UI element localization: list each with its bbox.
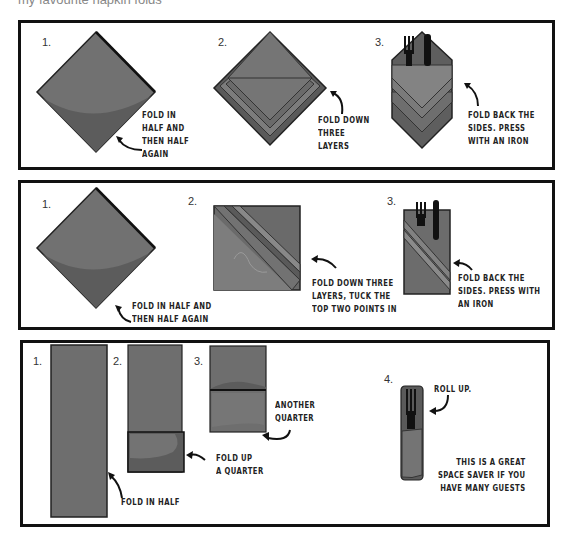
step-note: Fold in half bbox=[121, 495, 180, 508]
step-note: Fold back thesides. Presswith an iron bbox=[468, 108, 535, 147]
step-number: 2. bbox=[113, 355, 122, 367]
step-note: Fold downthreelayers bbox=[318, 113, 370, 152]
folded-up-quarter-napkin-icon bbox=[127, 344, 185, 474]
step-number: 3. bbox=[194, 355, 203, 367]
step-number: 2. bbox=[188, 195, 197, 207]
curved-arrow-icon bbox=[260, 428, 292, 444]
step-number: 3. bbox=[387, 195, 396, 207]
step-note: Anotherquarter bbox=[275, 398, 315, 424]
square-diagonal-layers-napkin-icon bbox=[212, 204, 302, 292]
step-note: Fold upa quarter bbox=[216, 451, 264, 477]
step-note: Fold inhalf andthen halfagain bbox=[142, 108, 189, 160]
curved-arrow-icon bbox=[328, 88, 350, 116]
curved-arrow-icon bbox=[462, 80, 482, 108]
rectangular-pocket-with-cutlery-icon bbox=[402, 200, 452, 296]
curved-arrow-icon bbox=[113, 302, 133, 324]
curved-arrow-icon bbox=[106, 470, 126, 500]
step-number: 4. bbox=[384, 373, 393, 385]
pocket-napkin-with-cutlery-icon bbox=[384, 30, 459, 150]
curved-arrow-icon bbox=[452, 258, 474, 272]
step-note: Fold in half andthen half again bbox=[132, 299, 212, 325]
step-number: 3. bbox=[375, 36, 384, 48]
step-number: 1. bbox=[33, 355, 42, 367]
layered-diamond-napkin-icon bbox=[208, 30, 333, 150]
curved-arrow-icon bbox=[428, 393, 450, 417]
curved-arrow-icon bbox=[185, 450, 207, 462]
step-note: Fold down threelayers, tuck thetop two p… bbox=[312, 276, 397, 315]
folded-another-quarter-napkin-icon bbox=[209, 345, 267, 435]
rolled-napkin-with-fork-icon bbox=[400, 385, 426, 481]
tip-note: This is a greatspace saver if youhave ma… bbox=[438, 455, 526, 494]
diamond-napkin-icon bbox=[33, 186, 158, 311]
curved-arrow-icon bbox=[310, 254, 338, 270]
step-note: Fold back thesides. Press withan iron bbox=[458, 271, 540, 310]
curved-arrow-icon bbox=[114, 134, 144, 154]
page-caption: my favourite napkin folds bbox=[18, 0, 162, 7]
tall-rectangle-napkin-icon bbox=[50, 344, 108, 518]
